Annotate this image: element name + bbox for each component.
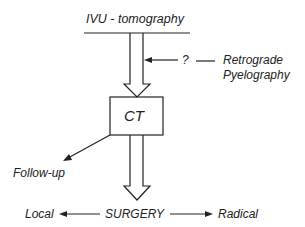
ivu-tomography-label: IVU - tomography xyxy=(86,13,184,26)
local-label: Local xyxy=(25,208,54,220)
ct-label: CT xyxy=(124,108,144,123)
pyelography-label: Pyelography xyxy=(223,69,290,81)
follow-up-arrow-line xyxy=(68,135,110,158)
arrowhead-left-icon xyxy=(144,57,152,63)
question-mark-label: ? xyxy=(182,54,189,66)
radical-label: Radical xyxy=(218,208,258,220)
hollow-arrow-down-icon xyxy=(124,33,150,97)
hollow-arrow-down-icon xyxy=(124,135,150,200)
arrowhead-left-icon xyxy=(59,211,67,217)
arrowhead-down-left-icon xyxy=(63,154,72,161)
retrograde-label: Retrograde xyxy=(223,54,283,66)
flow-diagram-graphics xyxy=(0,0,305,227)
follow-up-label: Follow-up xyxy=(13,167,65,179)
surgery-label: SURGERY xyxy=(105,208,164,220)
arrowhead-right-icon xyxy=(205,211,213,217)
